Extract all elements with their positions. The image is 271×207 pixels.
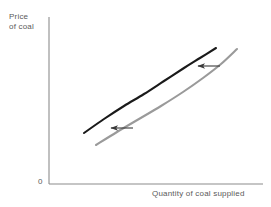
origin-label: 0 (38, 177, 42, 187)
supply-curve-original (84, 48, 216, 133)
supply-curve-shifted (96, 49, 237, 145)
x-axis-label: Quantity of coal supplied (152, 189, 245, 199)
supply-curve-chart: Priceof coal Quantity of coal supplied 0 (0, 0, 271, 207)
y-axis-label: Priceof coal (9, 12, 34, 32)
plot-area (0, 0, 271, 207)
y-axis-label-line2: of coal (9, 22, 34, 32)
y-axis-label-line1: Price (9, 12, 28, 21)
